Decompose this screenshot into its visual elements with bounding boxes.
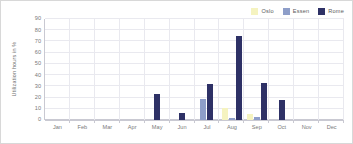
legend-item-oslo[interactable]: Oslo bbox=[251, 8, 273, 15]
bar-essen-jul[interactable] bbox=[200, 99, 206, 120]
y-tick-label-70: 70 bbox=[35, 39, 41, 45]
x-tick-label-mar: Mar bbox=[95, 120, 120, 138]
bar-group-jun bbox=[170, 19, 195, 120]
plot-area: 9080706050403020100 bbox=[45, 19, 344, 120]
bar-group-jul bbox=[195, 19, 220, 120]
x-tick-label-oct: Oct bbox=[269, 120, 294, 138]
bar-group-apr bbox=[120, 19, 145, 120]
legend-item-rome[interactable]: Rome bbox=[318, 8, 344, 15]
group-separator bbox=[343, 19, 344, 120]
bar-group-nov bbox=[294, 19, 319, 120]
y-tick-label-20: 20 bbox=[35, 95, 41, 101]
x-axis-labels: JanFebMarAprMayJunJulAugSepOctNovDec bbox=[45, 120, 344, 138]
bar-rome-aug[interactable] bbox=[236, 36, 242, 120]
bar-oslo-aug[interactable] bbox=[222, 108, 228, 120]
y-axis-title-wrap: Utilization hours in % bbox=[9, 19, 19, 119]
x-tick-mark bbox=[343, 120, 344, 123]
y-tick-label-30: 30 bbox=[35, 84, 41, 90]
bar-group-oct bbox=[269, 19, 294, 120]
bar-groups bbox=[45, 19, 344, 120]
x-tick-label-feb: Feb bbox=[70, 120, 95, 138]
bar-rome-sep[interactable] bbox=[261, 83, 267, 120]
bar-group-feb bbox=[70, 19, 95, 120]
legend-label-essen: Essen bbox=[293, 9, 310, 15]
y-tick-label-40: 40 bbox=[35, 72, 41, 78]
bar-chart: Oslo Essen Rome Utilization hours in % 9… bbox=[0, 0, 353, 144]
bar-rome-jun[interactable] bbox=[179, 113, 185, 120]
bar-group-mar bbox=[95, 19, 120, 120]
legend-swatch-oslo bbox=[251, 8, 258, 15]
x-tick-label-jun: Jun bbox=[170, 120, 195, 138]
x-tick-label-may: May bbox=[145, 120, 170, 138]
y-tick-label-10: 10 bbox=[35, 106, 41, 112]
chart-legend: Oslo Essen Rome bbox=[251, 8, 344, 15]
x-tick-label-aug: Aug bbox=[219, 120, 244, 138]
y-tick-label-80: 80 bbox=[35, 27, 41, 33]
bar-group-dec bbox=[319, 19, 344, 120]
legend-label-oslo: Oslo bbox=[261, 9, 273, 15]
legend-swatch-essen bbox=[283, 8, 290, 15]
bar-group-may bbox=[145, 19, 170, 120]
x-tick-label-apr: Apr bbox=[120, 120, 145, 138]
bar-group-sep bbox=[244, 19, 269, 120]
y-tick-label-90: 90 bbox=[35, 16, 41, 22]
x-tick-label-jan: Jan bbox=[45, 120, 70, 138]
bar-rome-jul[interactable] bbox=[207, 84, 213, 120]
y-tick-label-0: 0 bbox=[38, 117, 41, 123]
y-axis-title: Utilization hours in % bbox=[11, 42, 17, 97]
legend-label-rome: Rome bbox=[328, 9, 344, 15]
legend-swatch-rome bbox=[318, 8, 325, 15]
bar-rome-oct[interactable] bbox=[279, 100, 285, 120]
x-tick-label-sep: Sep bbox=[244, 120, 269, 138]
x-tick-label-jul: Jul bbox=[195, 120, 220, 138]
legend-item-essen[interactable]: Essen bbox=[283, 8, 310, 15]
bar-rome-may[interactable] bbox=[154, 94, 160, 120]
x-tick-label-dec: Dec bbox=[319, 120, 344, 138]
y-tick-label-60: 60 bbox=[35, 50, 41, 56]
x-tick-label-nov: Nov bbox=[294, 120, 319, 138]
bar-group-jan bbox=[45, 19, 70, 120]
bar-group-aug bbox=[219, 19, 244, 120]
y-tick-label-50: 50 bbox=[35, 61, 41, 67]
